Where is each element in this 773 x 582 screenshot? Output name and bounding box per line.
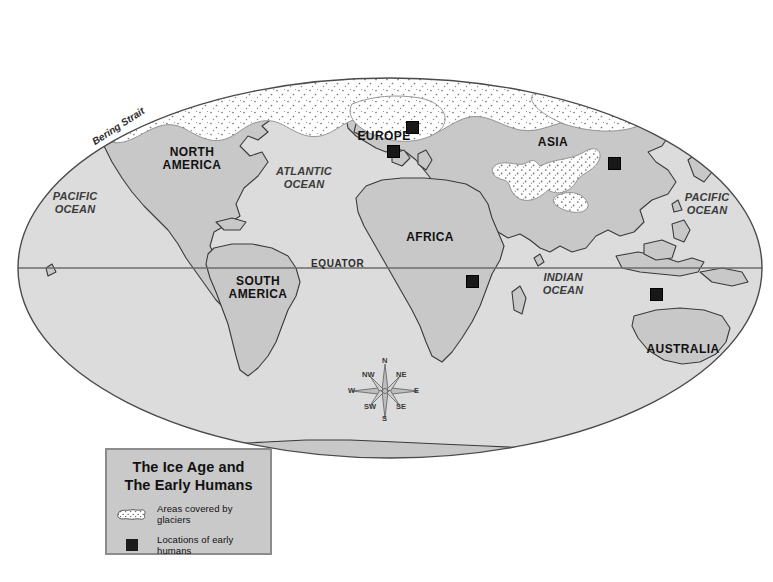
compass-rose: N NE E SE S SW W NW [344,358,426,424]
legend-label-early-humans: Locations of early humans [157,534,262,556]
legend-title-line1: The Ice Age and [132,459,244,475]
glacier-patch-icon [115,508,149,521]
legend-item-glaciers: Areas covered by glaciers [115,503,262,525]
legend-title: The Ice Age and The Early Humans [115,459,262,494]
marker-site-africa-east[interactable] [466,275,479,288]
legend-item-early-humans: Locations of early humans [115,534,262,556]
compass-dir-north: N [382,356,387,365]
compass-dir-east: E [414,386,419,395]
map-canvas: NORTHAMERICA SOUTHAMERICA EUROPE AFRICA … [0,0,773,582]
marker-site-southeast-asia[interactable] [650,288,663,301]
map-legend: The Ice Age and The Early Humans Areas c… [105,448,272,555]
compass-dir-southeast: SE [396,402,406,411]
compass-dir-northeast: NE [396,370,406,379]
compass-dir-west: W [348,386,355,395]
compass-dir-southwest: SW [364,402,376,411]
legend-label-glaciers: Areas covered by glaciers [157,503,262,525]
compass-dir-south: S [382,414,387,423]
marker-site-europe-north[interactable] [406,121,419,134]
legend-title-line2: The Early Humans [124,477,252,493]
marker-site-europe-south[interactable] [387,145,400,158]
compass-dir-northwest: NW [362,370,375,379]
black-square-icon [115,539,149,551]
new-zealand-land [744,346,760,368]
marker-site-asia-east[interactable] [608,157,621,170]
